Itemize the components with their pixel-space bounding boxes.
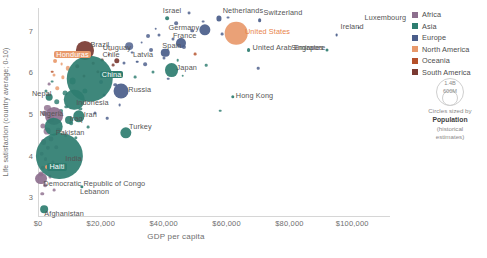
x-tick-label: $80,000 <box>275 219 304 228</box>
point-label: United States <box>245 28 290 35</box>
data-point-unlabeled[interactable] <box>257 67 260 70</box>
point-label: Iran <box>84 111 97 118</box>
data-point[interactable] <box>136 60 139 63</box>
point-label: Pakistan <box>56 129 85 136</box>
data-point-unlabeled[interactable] <box>123 62 126 65</box>
data-point-unlabeled[interactable] <box>112 64 115 67</box>
x-tick-label: $100,000 <box>336 219 369 228</box>
data-point-unlabeled[interactable] <box>146 34 150 38</box>
point-label: Afghanistan <box>44 210 84 217</box>
x-tick-label: $40,000 <box>149 219 178 228</box>
x-axis-line <box>38 216 390 217</box>
point-label: Germany <box>169 24 200 31</box>
data-point-unlabeled[interactable] <box>220 33 223 36</box>
data-point-unlabeled[interactable] <box>227 16 230 19</box>
data-point[interactable] <box>335 34 338 37</box>
legend-swatch-icon <box>412 12 418 18</box>
scatter-plot-area: 34567 $0$20,000$40,000$60,000$80,000$100… <box>38 8 390 216</box>
data-point-unlabeled[interactable] <box>87 126 90 129</box>
data-point-unlabeled[interactable] <box>52 73 55 76</box>
legend-item-label: Africa <box>422 10 441 19</box>
data-point-unlabeled[interactable] <box>41 192 45 196</box>
legend-swatch-icon <box>412 23 418 29</box>
data-point-unlabeled[interactable] <box>155 28 158 31</box>
point-label: Netherlands <box>223 7 263 14</box>
y-tick-label: 6 <box>29 68 33 77</box>
data-point[interactable] <box>258 19 262 23</box>
legend-item-africa[interactable]: Africa <box>412 10 486 19</box>
data-point-unlabeled[interactable] <box>50 80 53 83</box>
point-label: Spain <box>162 42 181 49</box>
data-point[interactable] <box>231 95 234 98</box>
data-point[interactable] <box>216 16 221 21</box>
data-point-unlabeled[interactable] <box>194 52 197 55</box>
point-label: Latvia <box>133 51 153 58</box>
data-point[interactable] <box>247 48 251 52</box>
y-tick-label: 3 <box>29 193 33 202</box>
chart-root: 34567 $0$20,000$40,000$60,000$80,000$100… <box>0 0 487 258</box>
data-point[interactable] <box>114 84 129 99</box>
legend-swatch-icon <box>412 58 418 64</box>
size-legend-caption: Circles sized by Population (historical … <box>414 107 486 141</box>
data-point[interactable] <box>199 24 210 35</box>
data-point[interactable] <box>53 59 57 63</box>
data-point-unlabeled[interactable] <box>134 76 137 79</box>
data-point[interactable] <box>161 48 170 57</box>
legend-item-label: Asia <box>422 22 437 31</box>
data-point-unlabeled[interactable] <box>62 76 65 79</box>
point-label: Israel <box>163 7 181 14</box>
y-tick-label: 5 <box>29 110 33 119</box>
point-label: Haiti <box>47 163 66 170</box>
data-point-unlabeled[interactable] <box>51 70 54 73</box>
point-label: Indonesia <box>76 99 109 106</box>
data-point-unlabeled[interactable] <box>157 34 160 37</box>
point-label: Ireland <box>341 23 364 30</box>
data-point-unlabeled[interactable] <box>151 70 154 73</box>
data-point-unlabeled[interactable] <box>106 117 109 120</box>
data-point-unlabeled[interactable] <box>177 59 180 62</box>
data-point-unlabeled[interactable] <box>56 87 60 91</box>
x-tick-label: $60,000 <box>212 219 241 228</box>
y-tick-label: 4 <box>29 151 33 160</box>
point-label: France <box>173 32 196 39</box>
data-point-unlabeled[interactable] <box>118 104 121 107</box>
y-tick-label: 7 <box>29 26 33 35</box>
data-point-unlabeled[interactable] <box>140 41 143 44</box>
data-point[interactable] <box>225 22 248 45</box>
legend-item-asia[interactable]: Asia <box>412 22 486 31</box>
point-label: Nigeria <box>40 110 64 117</box>
data-point-unlabeled[interactable] <box>54 99 60 105</box>
point-label: Russia <box>128 86 151 93</box>
data-point-unlabeled[interactable] <box>181 75 184 78</box>
data-point[interactable] <box>165 17 169 21</box>
point-label: United Arab Emirates <box>253 44 324 51</box>
x-tick-label: $20,000 <box>87 219 116 228</box>
data-point-unlabeled[interactable] <box>162 57 165 60</box>
data-point-unlabeled[interactable] <box>143 62 147 66</box>
legend-item-north-america[interactable]: North America <box>412 45 486 54</box>
data-point[interactable] <box>114 58 119 63</box>
data-point-unlabeled[interactable] <box>187 12 190 15</box>
data-point-unlabeled[interactable] <box>202 20 205 23</box>
x-tick-label: $0 <box>34 219 43 228</box>
data-point[interactable] <box>326 48 329 51</box>
data-point-unlabeled[interactable] <box>48 83 51 86</box>
data-point-unlabeled[interactable] <box>219 109 222 112</box>
size-label-small: 600M <box>443 88 457 94</box>
point-label: Honduras <box>54 51 90 58</box>
point-label: Hong Kong <box>236 92 273 99</box>
point-label: China <box>100 71 124 78</box>
legend-item-europe[interactable]: Europe <box>412 33 486 42</box>
point-label: Lebanon <box>80 188 109 195</box>
point-label: Turkey <box>129 123 152 130</box>
legend-item-oceania[interactable]: Oceania <box>412 56 486 65</box>
data-point-unlabeled[interactable] <box>167 77 170 80</box>
data-point-unlabeled[interactable] <box>53 188 56 191</box>
data-point-unlabeled[interactable] <box>205 64 208 67</box>
point-label: Chile <box>103 51 120 58</box>
size-legend-circles: 1.4B 600M <box>414 76 486 106</box>
legend-swatch-icon <box>412 35 418 41</box>
data-point-unlabeled[interactable] <box>60 63 63 66</box>
legend-swatch-icon <box>412 69 418 75</box>
size-caption-line1: Circles sized by <box>414 107 486 115</box>
